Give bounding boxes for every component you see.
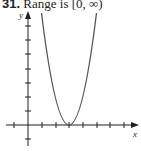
y-axis-arrow-icon — [25, 11, 31, 19]
y-axis-label: y — [18, 10, 23, 20]
parabola-curve — [42, 13, 97, 125]
x-axis-arrow-icon — [131, 122, 139, 128]
graph: x y — [0, 0, 141, 151]
y-axis: y — [18, 10, 31, 146]
x-axis: x — [6, 122, 139, 139]
x-axis-label: x — [132, 129, 137, 139]
